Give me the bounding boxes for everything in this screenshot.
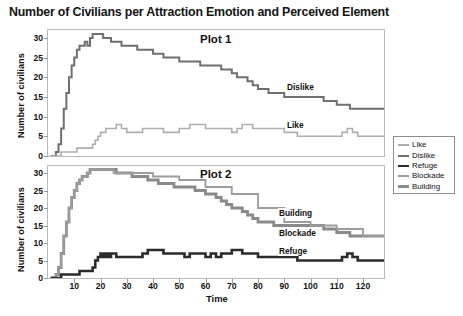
x-tickmark-10 [74, 279, 75, 283]
legend-swatch-blockade [398, 175, 409, 177]
plot-1-y-tickmark-20 [44, 77, 48, 78]
legend-label-blockade: Blockade [412, 171, 444, 181]
plot-1-y-tickmark-25 [44, 58, 48, 59]
legend-swatch-dislike [398, 155, 409, 157]
plot-1-panel [47, 29, 385, 157]
plot-1-y-tick-15: 15 [25, 92, 43, 102]
plot-1-y-tick-0: 0 [25, 151, 43, 161]
plot-1-label: Plot 1 [200, 33, 231, 45]
legend-label-building: Building [412, 182, 440, 192]
plot-1-y-tick-5: 5 [25, 131, 43, 141]
legend-label-like: Like [412, 140, 426, 150]
plot-1-y-tickmark-10 [44, 117, 48, 118]
plot-1-y-tickmark-15 [44, 97, 48, 98]
plot-2-y-tickmark-10 [44, 243, 48, 244]
x-tickmark-80 [258, 279, 259, 283]
plot-2-y-tickmark-5 [44, 261, 48, 262]
legend: Like Dislike Refuge Blockade Building [393, 136, 455, 194]
x-tickmark-120 [363, 279, 364, 283]
plot-1-lines [48, 30, 384, 156]
plot-2-y-tick-30: 30 [25, 168, 43, 178]
legend-swatch-like [398, 144, 409, 146]
plot-1-y-tickmark-30 [44, 38, 48, 39]
series-dislike [51, 34, 384, 156]
legend-label-dislike: Dislike [412, 151, 435, 161]
plot-1-y-tickmark-5 [44, 136, 48, 137]
plot-2-y-tickmark-0 [44, 278, 48, 279]
figure-title: Number of Civilians per Attraction Emoti… [9, 5, 459, 19]
inline-label-dislike: Dislike [286, 82, 315, 92]
chart-figure: Number of Civilians per Attraction Emoti… [0, 0, 463, 316]
plot-2-y-tickmark-30 [44, 173, 48, 174]
series-refuge [51, 250, 384, 278]
series-like [51, 125, 384, 157]
plot-2-y-tickmark-25 [44, 191, 48, 192]
x-tickmark-100 [311, 279, 312, 283]
x-tickmark-20 [101, 279, 102, 283]
x-tickmark-30 [127, 279, 128, 283]
plot-2-y-tick-15: 15 [25, 221, 43, 231]
plot-2-lines [48, 166, 384, 278]
x-tickmark-50 [179, 279, 180, 283]
plot-2-y-tick-10: 10 [25, 238, 43, 248]
x-axis-label: Time [206, 293, 228, 304]
plot-2-y-tickmark-20 [44, 208, 48, 209]
plot-1-y-tick-30: 30 [25, 33, 43, 43]
legend-swatch-building [398, 185, 409, 188]
x-tickmark-90 [284, 279, 285, 283]
plot-2-label: Plot 2 [200, 168, 231, 180]
legend-item-refuge[interactable]: Refuge [398, 161, 451, 171]
plot-1-y-tick-10: 10 [25, 112, 43, 122]
legend-item-building[interactable]: Building [398, 182, 451, 192]
plot-2-y-tickmark-15 [44, 226, 48, 227]
plot-1-y-tickmark-0 [44, 156, 48, 157]
legend-swatch-refuge [398, 165, 409, 168]
legend-item-like[interactable]: Like [398, 140, 451, 150]
legend-item-blockade[interactable]: Blockade [398, 171, 451, 181]
inline-label-refuge: Refuge [278, 246, 308, 256]
legend-label-refuge: Refuge [412, 161, 437, 171]
x-tickmark-70 [232, 279, 233, 283]
inline-label-blockade: Blockade [278, 228, 317, 238]
plot-2-y-tick-5: 5 [25, 256, 43, 266]
plot-2-y-tick-20: 20 [25, 203, 43, 213]
plot-2-panel [47, 165, 385, 279]
x-tickmark-110 [337, 279, 338, 283]
x-tickmark-40 [153, 279, 154, 283]
inline-label-like: Like [286, 120, 305, 130]
x-tickmark-60 [206, 279, 207, 283]
plot-2-y-tick-25: 25 [25, 186, 43, 196]
plot-2-y-tick-0: 0 [25, 273, 43, 283]
plot-1-y-tick-20: 20 [25, 72, 43, 82]
plot-1-y-tick-25: 25 [25, 53, 43, 63]
inline-label-building: Building [278, 208, 313, 218]
legend-item-dislike[interactable]: Dislike [398, 150, 451, 160]
